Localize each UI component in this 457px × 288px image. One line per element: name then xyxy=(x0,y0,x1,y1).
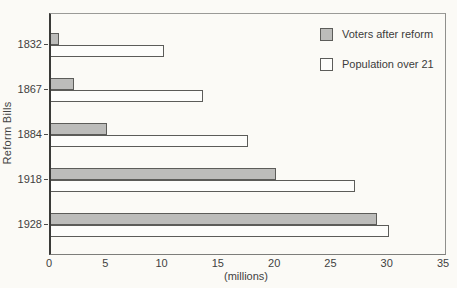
x-tick-label-30: 30 xyxy=(381,257,393,269)
category-label-1884: 1884 xyxy=(0,129,42,140)
x-tick-label-10: 10 xyxy=(155,257,167,269)
x-tick-15 xyxy=(220,249,221,254)
x-tick-25 xyxy=(332,249,333,254)
bar-population-1884 xyxy=(51,135,248,147)
legend-label: Population over 21 xyxy=(342,58,434,70)
bar-population-1867 xyxy=(51,90,203,102)
x-tick-20 xyxy=(276,249,277,254)
category-label-1832: 1832 xyxy=(0,39,42,50)
category-label-1867: 1867 xyxy=(0,84,42,95)
bar-voters-1832 xyxy=(51,33,59,45)
bar-population-1832 xyxy=(51,45,164,57)
y-tick-1867 xyxy=(44,89,48,90)
legend-label: Voters after reform xyxy=(342,28,433,40)
x-tick-5 xyxy=(107,249,108,254)
bar-voters-1884 xyxy=(51,123,107,135)
y-tick-1918 xyxy=(44,179,48,180)
x-tick-label-35: 35 xyxy=(437,257,449,269)
x-axis-title: (millions) xyxy=(49,270,443,282)
y-tick-1928 xyxy=(44,224,48,225)
x-tick-30 xyxy=(389,249,390,254)
plot-area: Voters after reformPopulation over 21 xyxy=(49,13,446,255)
legend-item-voters: Voters after reform xyxy=(320,27,433,41)
bar-population-1928 xyxy=(51,225,389,237)
legend-item-population: Population over 21 xyxy=(320,57,434,71)
x-tick-label-0: 0 xyxy=(46,257,52,269)
x-tick-label-25: 25 xyxy=(324,257,336,269)
x-tick-label-15: 15 xyxy=(212,257,224,269)
legend-swatch-population xyxy=(320,58,333,71)
category-label-1928: 1928 xyxy=(0,219,42,230)
y-tick-1832 xyxy=(44,44,48,45)
category-label-1918: 1918 xyxy=(0,174,42,185)
x-tick-label-5: 5 xyxy=(102,257,108,269)
y-tick-1884 xyxy=(44,134,48,135)
legend-swatch-voters xyxy=(320,28,333,41)
bar-voters-1928 xyxy=(51,213,377,225)
x-tick-10 xyxy=(164,249,165,254)
bar-voters-1918 xyxy=(51,168,276,180)
bar-voters-1867 xyxy=(51,78,74,90)
x-tick-label-20: 20 xyxy=(268,257,280,269)
reform-bills-bar-chart: Reform Bills Voters after reformPopulati… xyxy=(0,0,457,288)
bar-population-1918 xyxy=(51,180,355,192)
